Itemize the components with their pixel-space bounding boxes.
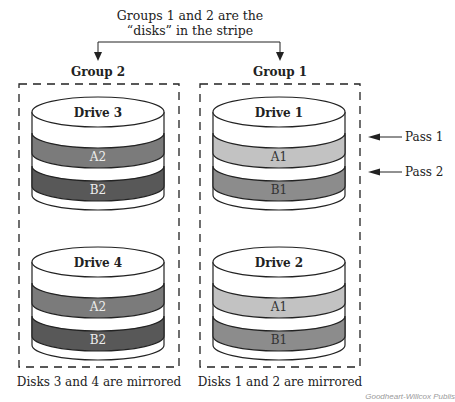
arrow-left-icon	[368, 134, 380, 141]
group-2-label: Group 2	[71, 65, 125, 79]
pass-1-pointer: Pass 1	[368, 130, 443, 144]
title-line-1: Groups 1 and 2 are the	[117, 8, 264, 23]
band-label: A2	[89, 150, 106, 164]
raid-10-diagram: Groups 1 and 2 are the “disks” in the st…	[0, 0, 455, 402]
drive-label: Drive 3	[74, 106, 122, 120]
drive-3: Drive 3 A2 B2	[32, 97, 164, 210]
title-line-2: “disks” in the stripe	[127, 23, 253, 38]
arrow-left-icon	[368, 169, 380, 176]
pass-2-pointer: Pass 2	[368, 165, 443, 179]
pass-2-label: Pass 2	[405, 165, 443, 179]
band-label: A1	[270, 300, 287, 314]
arrow-down-icon	[94, 52, 102, 61]
drive-label: Drive 2	[255, 256, 303, 270]
drive-label: Drive 1	[255, 106, 303, 120]
arrow-down-icon	[276, 52, 284, 61]
group-2-caption: Disks 3 and 4 are mirrored	[17, 375, 182, 389]
band-label: A1	[270, 150, 287, 164]
group-1-caption: Disks 1 and 2 are mirrored	[198, 375, 363, 389]
band-label: B1	[271, 183, 287, 197]
group-1-label: Group 1	[253, 65, 307, 79]
band-label: B2	[90, 333, 106, 347]
stripe-bracket	[94, 42, 284, 61]
drive-1: Drive 1 A1 B1	[213, 97, 345, 210]
band-label: A2	[89, 300, 106, 314]
band-label: B2	[90, 183, 106, 197]
drive-2: Drive 2 A1 B1	[213, 247, 345, 360]
band-label: B1	[271, 333, 287, 347]
drive-4: Drive 4 A2 B2	[32, 247, 164, 360]
pass-1-label: Pass 1	[405, 130, 443, 144]
publisher-credit: Goodheart-Willcox Publis	[365, 392, 455, 401]
drive-label: Drive 4	[74, 256, 122, 270]
